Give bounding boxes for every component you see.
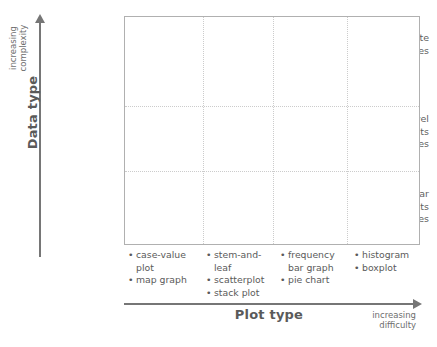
list-item: stem-and-leaf [206,249,276,274]
list-item: histogram [354,249,420,262]
list-item: scatterplot [206,274,276,287]
plot-type-column-3: frequency bar graph pie chart [276,249,350,297]
list-item: map graph [128,274,202,287]
list-item: pie chart [280,274,350,287]
x-axis-arrowhead-icon [413,299,422,309]
y-axis-direction-note: increasing complexity [8,8,28,88]
plot-type-column-1: case-value plot map graph [124,249,202,297]
x-axis-line [124,303,414,305]
gridline-horizontal-1 [125,106,419,107]
gridline-horizontal-2 [125,171,419,172]
gridline-vertical-1 [203,17,204,244]
list-item: boxplot [354,262,420,275]
plot-type-column-4: histogram boxplot [350,249,420,297]
y-axis-group: Data type increasing complexity [0,0,124,270]
plot-type-column-2: stem-and-leaf scatterplot stack plot [202,249,276,297]
x-axis-direction-note: increasing difficulty [320,310,416,330]
gridline-vertical-2 [273,17,274,244]
list-item: case-value plot [128,249,202,274]
plot-area [124,16,420,245]
list-item: stack plot [206,287,276,300]
gridline-vertical-3 [347,17,348,244]
list-item: frequency bar graph [280,249,350,274]
plot-type-columns: case-value plot map graph stem-and-leaf … [124,249,420,297]
